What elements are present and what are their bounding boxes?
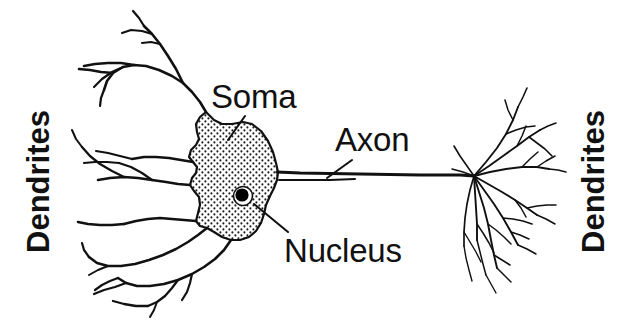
dendrite-left-mid-main [98,177,190,185]
dendrite-right-dn-2a [503,218,532,224]
neuron-diagram: Soma Axon Nucleus Dendrites Dendrites [0,0,632,329]
dendrite-left-upper-outer [104,65,206,112]
neuron-illustration [0,0,632,329]
dendrite-left-lower-loop-outer [89,228,207,266]
label-dendrites-right: Dendrites [578,105,609,259]
dendrite-right-mid-1b [549,169,566,172]
dendrite-left-tip-h2 [89,266,108,275]
dendrite-left-upper-tip [100,90,104,106]
dendrite-left-mid-up-tip [72,130,82,147]
axon-terminal-dendrites [452,88,566,293]
dendrite-right-up-2a [529,137,552,156]
dendrite-left-bottom-b [113,301,148,306]
dendrite-right-up-2b [540,123,556,130]
dendrite-right-mid-1a [537,156,555,167]
dendrite-right-dn-1a [527,205,556,208]
dendrite-left-tall-branch-b [133,11,144,26]
label-axon: Axon [335,123,409,156]
axon-shaft-lower [279,179,355,180]
axon [277,172,474,180]
label-soma: Soma [211,80,296,113]
dendrite-right-dn-4c [486,275,496,293]
dendrite-left-lower-1b [78,222,124,225]
label-nucleus: Nucleus [284,234,402,267]
dendrite-left-tall-stem [144,26,183,83]
dendrite-right-up-1c [505,100,513,120]
label-dendrites-left: Dendrites [23,105,54,259]
dendrite-right-up-1b [518,88,527,107]
nucleus-dot [235,188,248,201]
dendrite-right-dn-2 [474,176,518,245]
dendrite-left-h2 [79,69,113,73]
dendrite-right-up-3 [454,146,474,176]
dendrite-right-dn-1b [537,215,555,224]
nucleus [234,187,253,206]
dendrite-left-scallop-1b [96,151,132,159]
axon-shaft-upper [277,172,474,176]
dendrite-left-lower-1 [124,218,196,224]
dendrite-left-mid-branch-h [84,162,119,163]
dendrite-right-mid-1c [522,152,538,167]
dendrite-left-lower-loop-tip [82,243,89,257]
dendrite-right-dn-3b [497,268,511,282]
dendrite-left-scallop-1 [132,157,193,162]
dendrite-right-dn-2b [518,245,536,254]
dendrite-right-dn-5b [464,246,472,281]
